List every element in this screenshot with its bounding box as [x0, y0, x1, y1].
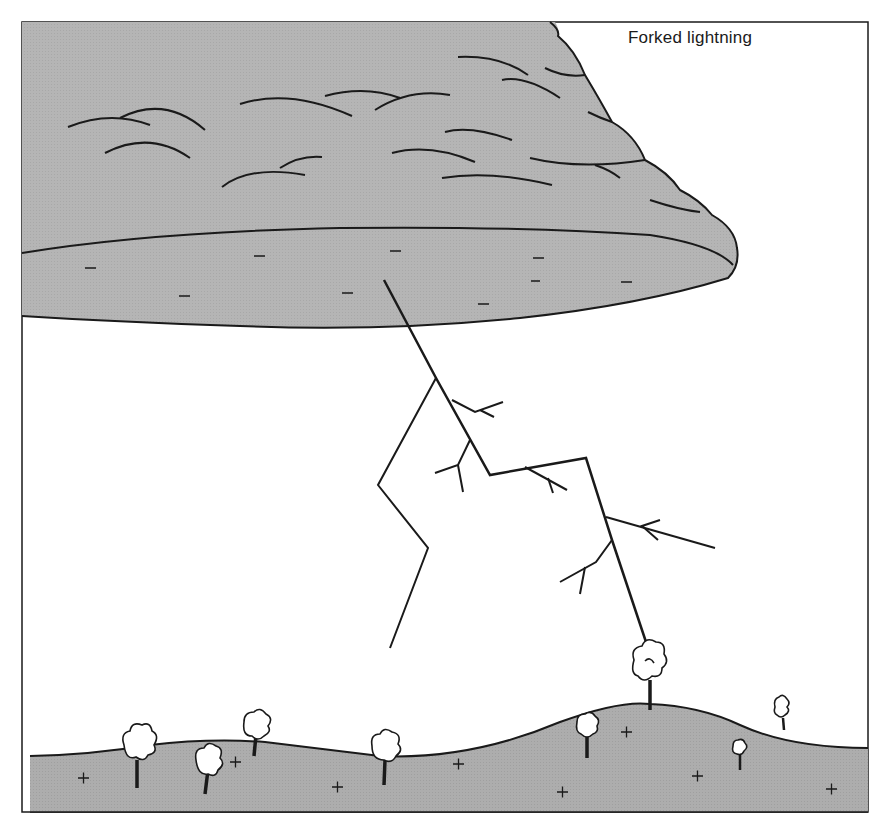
- diagram-canvas: [0, 0, 885, 838]
- forked-lightning-diagram: Forked lightning: [0, 0, 885, 838]
- diagram-title: Forked lightning: [628, 28, 752, 48]
